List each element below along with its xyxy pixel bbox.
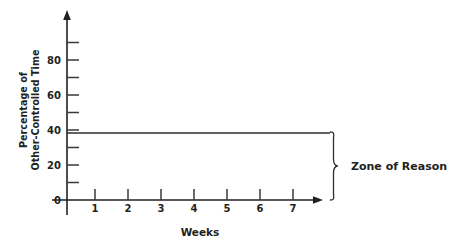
x-tick-labels: 1 2 3 4 5 6 7 — [92, 203, 297, 214]
x-tick-label-3: 3 — [158, 203, 165, 214]
x-tick-label-1: 1 — [92, 203, 99, 214]
y-tick-label-20: 20 — [47, 160, 61, 171]
y-axis-title-line2: Other-Controlled Time — [30, 49, 41, 170]
x-tick-label-4: 4 — [191, 203, 198, 214]
y-tick-label-0: 0 — [54, 195, 61, 206]
x-axis-title: Weeks — [181, 226, 220, 238]
zone-of-reason-label: Zone of Reason — [351, 160, 447, 173]
x-tick-label-7: 7 — [290, 203, 297, 214]
chart-canvas: 80 60 40 20 0 1 2 3 4 5 6 7 — [0, 0, 456, 245]
y-tick-labels: 80 60 40 20 0 — [47, 55, 61, 206]
y-tick-label-80: 80 — [47, 55, 61, 66]
x-tick-label-2: 2 — [125, 203, 132, 214]
chart-container: 80 60 40 20 0 1 2 3 4 5 6 7 — [0, 0, 456, 245]
y-axis-title-line1: Percentage of — [18, 71, 29, 148]
x-axis-arrow-icon — [313, 196, 323, 204]
zone-of-reason-annotation: Zone of Reason — [331, 132, 448, 200]
y-tick-label-40: 40 — [47, 125, 61, 136]
curly-brace-icon — [331, 132, 338, 200]
axis-titles: Percentage of Other-Controlled Time Week… — [18, 49, 219, 238]
x-tick-marks — [95, 189, 293, 200]
x-tick-label-5: 5 — [224, 203, 231, 214]
y-tick-marks — [67, 43, 79, 183]
y-tick-label-60: 60 — [47, 90, 61, 101]
y-axis-arrow-icon — [63, 10, 71, 20]
x-tick-label-6: 6 — [257, 203, 264, 214]
